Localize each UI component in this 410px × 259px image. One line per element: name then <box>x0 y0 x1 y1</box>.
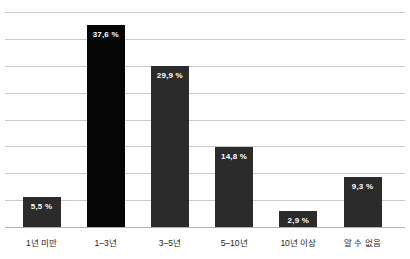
category-axis: 1년 미만1–3년3–5년5–10년10년 이상알 수 없음 <box>0 232 410 259</box>
bar-value-label: 37,6 % <box>87 30 125 39</box>
bar-value-label: 2,9 % <box>279 216 317 225</box>
plot-area: 5,5 %37,6 %29,9 %14,8 %2,9 %9,3 % <box>0 0 410 232</box>
bar-group: 9,3 % <box>344 177 382 227</box>
bars-layer: 5,5 %37,6 %29,9 %14,8 %2,9 %9,3 % <box>0 0 410 232</box>
bar-group: 5,5 % <box>23 197 61 227</box>
bar[interactable] <box>151 66 189 227</box>
bar-value-label: 14,8 % <box>215 152 253 161</box>
bar-chart-figure: 5,5 %37,6 %29,9 %14,8 %2,9 %9,3 % 1년 미만1… <box>0 0 410 259</box>
bar-value-label: 9,3 % <box>344 182 382 191</box>
bar-value-label: 29,9 % <box>151 71 189 80</box>
bar[interactable] <box>87 25 125 227</box>
bar-group: 37,6 % <box>87 25 125 227</box>
category-label: 알 수 없음 <box>325 238 401 249</box>
bar-group: 2,9 % <box>279 211 317 227</box>
bar-group: 14,8 % <box>215 147 253 227</box>
bar-group: 29,9 % <box>151 66 189 227</box>
bar-value-label: 5,5 % <box>23 202 61 211</box>
